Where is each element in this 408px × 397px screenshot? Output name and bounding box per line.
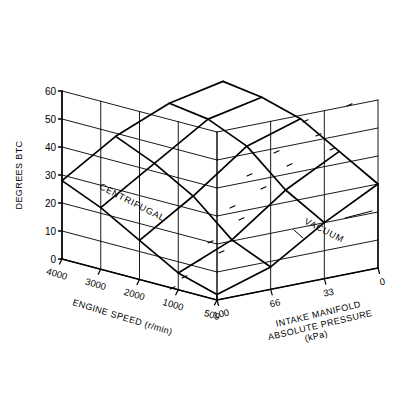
x-tick-3000	[98, 269, 101, 274]
surface-dash-7	[219, 251, 224, 253]
y-tick-label-33: 33	[322, 286, 335, 299]
x-tick-label-1000: 1000	[162, 296, 185, 313]
wall-gridline-right-z-50	[217, 128, 378, 160]
surface-dash-11	[330, 148, 335, 150]
x-tick-2000	[137, 280, 140, 285]
x-tick-label-3000: 3000	[84, 276, 107, 293]
y-tick-33	[324, 279, 326, 285]
x-tick-label-2000: 2000	[123, 286, 146, 303]
z-tick-label-10: 10	[45, 226, 57, 237]
vacuum-leader-line-right	[345, 211, 372, 218]
y-tick-label-0: 0	[378, 276, 386, 288]
surface-dash-5	[287, 164, 292, 166]
x-tick-1000	[176, 290, 179, 295]
surface-dash-4	[274, 151, 279, 153]
surface-dash-0	[247, 174, 252, 176]
figure-canvas: 6050403020100DEGREES BTC4000300020001000…	[0, 0, 408, 397]
surface-dash-3	[239, 218, 244, 220]
z-tick-label-40: 40	[45, 142, 57, 153]
wall-gridline-right-z-40	[217, 156, 378, 188]
mesh-row-x-3000	[101, 97, 262, 207]
floor-edge-y	[217, 268, 378, 300]
mesh-col-y-33	[169, 103, 324, 222]
mesh-row-x-4000	[62, 81, 223, 180]
surface-dash-2	[230, 206, 235, 208]
x-tick-label-4000: 4000	[45, 265, 68, 282]
z-tick-label-30: 30	[45, 170, 57, 181]
y-tick-0	[378, 268, 380, 274]
x-axis-title: ENGINE SPEED (r/min)	[71, 297, 173, 337]
y-tick-label-100: 100	[212, 306, 230, 320]
z-tick-label-20: 20	[45, 198, 57, 209]
z-tick-label-60: 60	[45, 86, 57, 97]
axis-box	[59, 91, 380, 306]
z-tick-label-50: 50	[45, 114, 57, 125]
wall-gridline-right-z-20	[217, 212, 378, 244]
surface-dash-1	[261, 187, 266, 189]
y-tick-label-66: 66	[268, 296, 281, 309]
z-axis-title: DEGREES BTC	[14, 140, 24, 209]
vacuum-leader-line	[294, 230, 303, 238]
y-tick-66	[271, 289, 273, 295]
surface-plot-svg: 6050403020100DEGREES BTC4000300020001000…	[0, 0, 408, 397]
axis-labels: 6050403020100DEGREES BTC4000300020001000…	[14, 86, 386, 344]
x-tick-4000	[60, 259, 63, 264]
y-tick-100	[217, 300, 219, 306]
z-tick-label-0: 0	[50, 254, 56, 265]
